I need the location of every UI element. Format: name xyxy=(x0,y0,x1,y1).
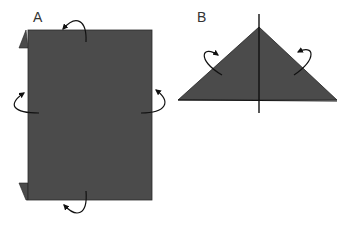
step-b-triangle xyxy=(178,14,337,113)
diagram-canvas xyxy=(0,0,344,229)
step-a-rectangle xyxy=(19,30,152,200)
top-left-flap xyxy=(19,30,28,48)
paper-triangle xyxy=(178,27,337,100)
bottom-left-flap xyxy=(19,183,28,200)
paper-rectangle xyxy=(28,30,152,200)
origami-diagram: A B xyxy=(0,0,344,229)
